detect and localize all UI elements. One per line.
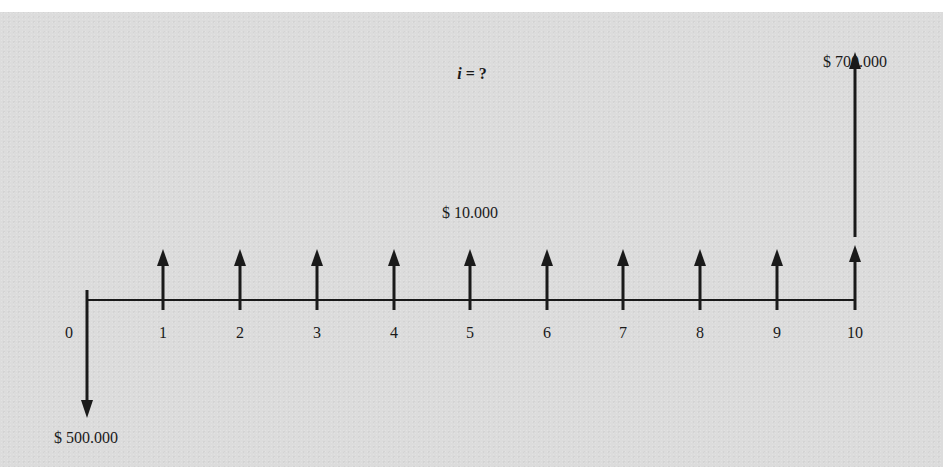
period-label-9: 9 bbox=[773, 325, 781, 341]
period-label-3: 3 bbox=[313, 325, 321, 341]
period-label-10: 10 bbox=[847, 325, 863, 341]
interest-rate-label: i = ? bbox=[457, 66, 487, 82]
period-label-5: 5 bbox=[466, 325, 474, 341]
outflow-label: $ 500.000 bbox=[54, 430, 118, 446]
interest-rate-unknown: = ? bbox=[462, 65, 487, 82]
annual-inflow-label: $ 10.000 bbox=[442, 205, 498, 221]
final-inflow-label: $ 700.000 bbox=[823, 54, 887, 70]
final-inflow-arrow-period-10 bbox=[849, 52, 861, 237]
period-label-1: 1 bbox=[159, 325, 167, 341]
period-label-0: 0 bbox=[65, 325, 73, 341]
outflow-arrow-period-0 bbox=[81, 290, 93, 418]
period-label-6: 6 bbox=[543, 325, 551, 341]
period-label-2: 2 bbox=[236, 325, 244, 341]
period-label-7: 7 bbox=[619, 325, 627, 341]
period-label-8: 8 bbox=[696, 325, 704, 341]
period-label-4: 4 bbox=[390, 325, 398, 341]
